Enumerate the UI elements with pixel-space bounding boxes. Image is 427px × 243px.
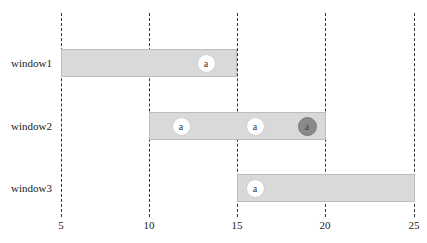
window1-event-1: a	[197, 54, 216, 73]
window3-event-1: a	[246, 179, 265, 198]
gridline-5	[61, 13, 62, 217]
window1-label: window1	[11, 56, 52, 70]
tick-label-5: 5	[46, 219, 76, 231]
window3-label: window3	[11, 181, 52, 195]
window2-event-late: a	[298, 117, 317, 136]
tick-label-15: 15	[222, 219, 252, 231]
window2-event-2: a	[246, 117, 265, 136]
tick-label-10: 10	[134, 219, 164, 231]
tick-label-25: 25	[399, 219, 427, 231]
window2-label: window2	[11, 119, 52, 133]
tick-label-20: 20	[310, 219, 340, 231]
window2-event-1: a	[172, 117, 191, 136]
